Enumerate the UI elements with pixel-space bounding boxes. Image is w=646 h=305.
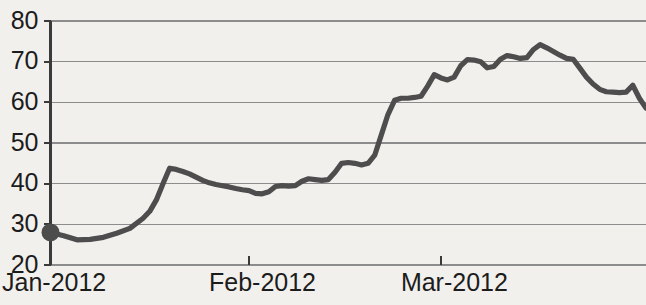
x-tick-label-2: Mar-2012 <box>401 268 508 296</box>
y-tick-label-50: 50 <box>11 128 39 156</box>
chart-canvas: 20304050607080 Jan-2012Feb-2012Mar-2012 <box>0 0 646 305</box>
x-tick-label-1: Feb-2012 <box>209 268 316 296</box>
chart-background <box>0 0 646 305</box>
y-tick-label-70: 70 <box>11 46 39 74</box>
y-tick-label-30: 30 <box>11 209 39 237</box>
y-tick-label-60: 60 <box>11 87 39 115</box>
x-axis-tick-labels: Jan-2012Feb-2012Mar-2012 <box>2 268 508 296</box>
series-start-marker <box>42 223 60 241</box>
line-chart: 20304050607080 Jan-2012Feb-2012Mar-2012 <box>0 0 646 305</box>
y-tick-label-40: 40 <box>11 168 39 196</box>
y-tick-label-80: 80 <box>11 6 39 34</box>
y-axis-tick-labels: 20304050607080 <box>11 6 39 278</box>
x-tick-label-0: Jan-2012 <box>2 268 106 296</box>
